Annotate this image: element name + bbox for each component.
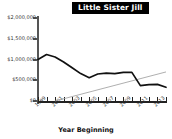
series-layer: [0, 0, 172, 139]
trend-line: [55, 72, 166, 101]
data-series-line: [38, 55, 166, 88]
chart-container: Little Sister Jill $0$500,000$1,000,000$…: [0, 0, 172, 139]
x-axis-title: Year Beginning: [0, 126, 172, 134]
